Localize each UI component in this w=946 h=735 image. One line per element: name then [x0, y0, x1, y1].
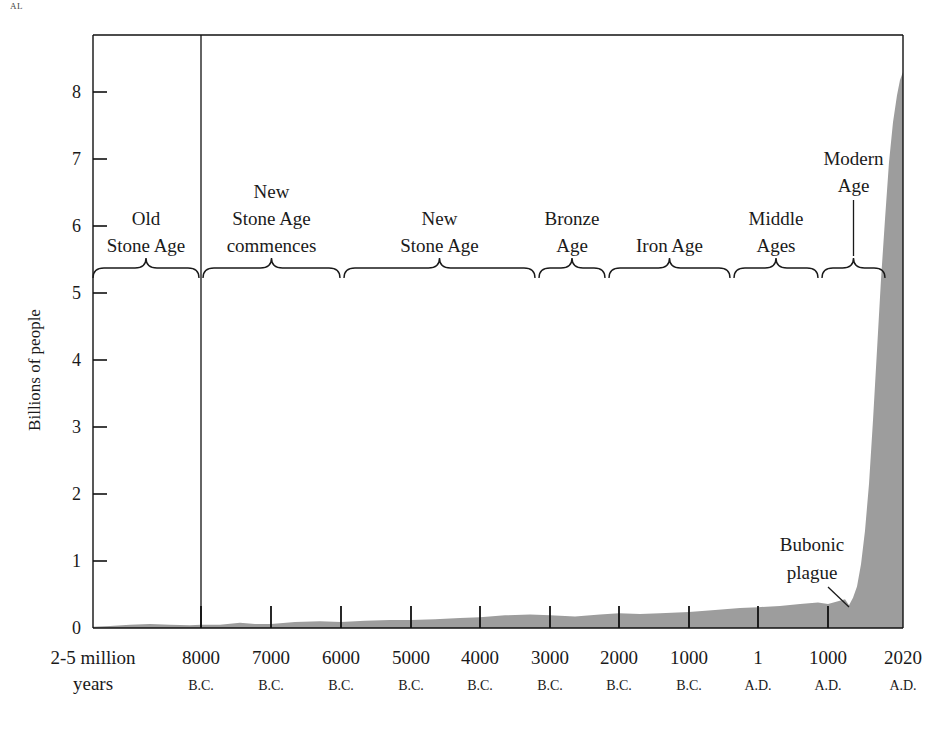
era-brace-iron-age — [609, 258, 730, 278]
era-label-middle-ages: Middle — [749, 208, 804, 229]
x-tick-year-label: 2020 — [884, 647, 922, 668]
y-tick-label: 2 — [72, 484, 81, 504]
x-tick-era-label: B.C. — [328, 678, 354, 693]
x-tick-era-label: B.C. — [188, 678, 214, 693]
x-tick-era-label: B.C. — [467, 678, 493, 693]
y-tick-label: 8 — [72, 82, 81, 102]
y-tick-label: 4 — [72, 350, 81, 370]
y-tick-label: 6 — [72, 216, 81, 236]
era-label-bronze-age: Bronze — [545, 208, 600, 229]
y-tick-label: 0 — [72, 618, 81, 638]
y-tick-label: 3 — [72, 417, 81, 437]
era-label-new-stone-age-commences: commences — [227, 235, 317, 256]
x-tick-era-label: B.C. — [398, 678, 424, 693]
era-label-new-stone-age: Stone Age — [400, 235, 479, 256]
x-tick-year-label: 6000 — [322, 647, 360, 668]
x-tick-era-label: A.D. — [889, 678, 916, 693]
era-brace-new-stone-age — [344, 258, 535, 278]
x-tick-year-label: 8000 — [182, 647, 220, 668]
x-tick-year-label: 1000 — [809, 647, 847, 668]
world-population-area-chart: 012345678 Billions of people 2-5 million… — [0, 0, 946, 735]
era-brace-new-stone-age-commences — [203, 258, 340, 278]
era-braces — [93, 258, 885, 278]
era-label-old-stone-age: Stone Age — [107, 235, 186, 256]
era-brace-bronze-age — [539, 258, 605, 278]
y-axis-ticks: 012345678 — [72, 82, 107, 638]
x-tick-era-label: B.C. — [676, 678, 702, 693]
x-tick-year-label: 1 — [753, 647, 763, 668]
y-tick-label: 7 — [72, 149, 81, 169]
population-history-figure: AL 012345678 Billions of people 2-5 mill… — [0, 0, 946, 735]
era-label-modern-age: Modern — [823, 148, 884, 169]
era-label-modern-age: Age — [838, 175, 870, 196]
era-brace-old-stone-age — [93, 258, 199, 278]
annotation-label-bubonic-plague: Bubonic — [780, 534, 844, 555]
x-tick-year-label: 3000 — [531, 647, 569, 668]
x-tick-year-label: 1000 — [670, 647, 708, 668]
era-label-old-stone-age: Old — [132, 208, 161, 229]
x-tick-year-label: 7000 — [252, 647, 290, 668]
x-tick-year-label: 5000 — [392, 647, 430, 668]
era-label-bronze-age: Age — [556, 235, 588, 256]
chart-annotations: Bubonicplague — [780, 534, 849, 607]
era-label-iron-age: Iron Age — [636, 235, 703, 256]
annotation-label-bubonic-plague: plague — [787, 562, 838, 583]
era-labels: OldStone AgeNewStone AgecommencesNewSton… — [107, 148, 884, 256]
x-tick-era-label: years — [73, 673, 113, 694]
x-tick-era-label: A.D. — [744, 678, 771, 693]
era-label-new-stone-age: New — [422, 208, 458, 229]
x-tick-era-label: B.C. — [606, 678, 632, 693]
era-label-new-stone-age-commences: Stone Age — [232, 208, 311, 229]
x-tick-year-label: 2000 — [600, 647, 638, 668]
era-brace-middle-ages — [734, 258, 818, 278]
x-tick-year-label: 2-5 million — [51, 647, 136, 668]
era-brace-modern-age — [822, 258, 885, 278]
y-axis-title: Billions of people — [25, 309, 44, 431]
x-tick-era-label: A.D. — [814, 678, 841, 693]
x-tick-era-label: B.C. — [258, 678, 284, 693]
x-tick-year-label: 4000 — [461, 647, 499, 668]
y-tick-label: 5 — [72, 283, 81, 303]
x-tick-era-label: B.C. — [537, 678, 563, 693]
y-tick-label: 1 — [72, 551, 81, 571]
era-label-new-stone-age-commences: New — [254, 181, 290, 202]
era-label-middle-ages: Ages — [756, 235, 795, 256]
